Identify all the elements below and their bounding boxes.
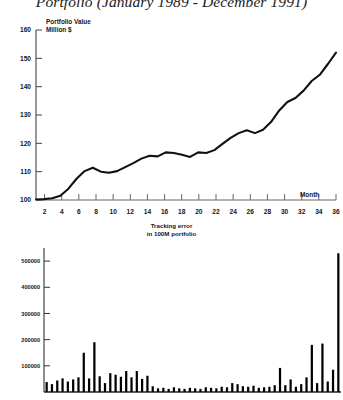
tracking-error-bar <box>321 344 323 392</box>
line-chart-x-tick-label: 22 <box>212 208 220 215</box>
line-chart-x-tick-label: 8 <box>94 208 98 215</box>
line-chart-y-tick-label: 110 <box>20 168 31 175</box>
tracking-error-bar <box>168 389 170 392</box>
tracking-error-bar <box>51 384 53 392</box>
tracking-error-bar <box>162 388 164 392</box>
tracking-error-bar <box>152 386 154 392</box>
tracking-error-bar <box>61 378 63 392</box>
tracking-error-bar <box>194 388 196 392</box>
line-chart-x-axis-label: Month <box>300 191 319 198</box>
tracking-error-bar <box>252 386 254 392</box>
tracking-error-bar <box>279 368 281 392</box>
line-chart-y-tick-label: 150 <box>20 55 31 62</box>
tracking-error-bar <box>109 373 111 392</box>
line-chart-y-tick-label: 120 <box>20 140 31 147</box>
tracking-error-bar <box>221 387 223 392</box>
line-chart-y-axis: 100110120130140150160 <box>20 26 42 203</box>
tracking-error-bar <box>274 385 276 392</box>
tracking-error-bar <box>327 382 329 392</box>
bar-chart-y-tick-label: 100000 <box>21 363 40 369</box>
tracking-error-bar <box>305 377 307 392</box>
bar-chart-y-tick-label: 300000 <box>21 311 40 317</box>
tracking-error-bar <box>236 384 238 392</box>
tracking-error-bar <box>46 382 48 392</box>
tracking-error-bar <box>125 371 127 392</box>
line-chart-x-tick-label: 30 <box>281 208 289 215</box>
line-chart-y-tick-label: 100 <box>20 196 31 203</box>
tracking-error-bar <box>215 388 217 392</box>
tracking-error-bar <box>316 383 318 392</box>
tracking-error-bar <box>242 386 244 392</box>
line-chart-x-axis: 24681012141618202224262830323436 <box>43 194 340 215</box>
caption-line-1: Tracking error <box>0 222 343 230</box>
tracking-error-bar <box>146 376 148 392</box>
line-chart-y-axis-label-2: Million $ <box>46 26 72 34</box>
tracking-error-bar <box>83 353 85 392</box>
tracking-error-bars <box>46 253 340 392</box>
line-chart-x-tick-label: 20 <box>195 208 203 215</box>
tracking-error-bar <box>72 379 74 392</box>
tracking-error-bar <box>231 383 233 392</box>
bar-chart-y-axis: 100000200000300000400000500000 <box>21 258 50 369</box>
figure-title: Portfolio (January 1989 - December 1991) <box>0 0 343 11</box>
tracking-error-bar <box>337 253 339 392</box>
tracking-error-bar <box>136 371 138 392</box>
tracking-error-bar <box>173 387 175 392</box>
tracking-error-bar <box>258 388 260 392</box>
tracking-error-bar <box>210 388 212 392</box>
tracking-error-bar <box>141 379 143 392</box>
tracking-error-bar <box>284 385 286 392</box>
line-chart-x-tick-label: 26 <box>247 208 255 215</box>
line-chart-y-tick-label: 130 <box>20 111 31 118</box>
line-chart-x-tick-label: 34 <box>315 208 323 215</box>
line-chart-x-tick-label: 28 <box>264 208 272 215</box>
portfolio-value-line-chart: 100110120130140150160 246810121416182022… <box>0 14 343 232</box>
tracking-error-bar <box>178 388 180 392</box>
tracking-error-bar <box>77 377 79 392</box>
tracking-error-bar <box>263 387 265 392</box>
tracking-error-bar <box>99 376 101 392</box>
line-chart-x-tick-label: 18 <box>178 208 186 215</box>
line-chart-x-tick-label: 32 <box>298 208 306 215</box>
bar-chart-svg: 100000200000300000400000500000 <box>0 240 343 400</box>
tracking-error-bar <box>130 377 132 392</box>
tracking-error-bar <box>88 378 90 392</box>
line-chart-x-tick-label: 14 <box>144 208 152 215</box>
caption-line-2: in 100M portfolio <box>0 230 343 238</box>
tracking-error-bar <box>67 382 69 392</box>
line-chart-y-tick-label: 140 <box>20 83 31 90</box>
line-chart-x-tick-label: 10 <box>109 208 117 215</box>
line-chart-y-axis-label-1: Portfolio Value <box>46 18 91 25</box>
tracking-error-bar <box>56 380 58 392</box>
tracking-error-bar <box>114 375 116 392</box>
tracking-error-bar <box>290 379 292 392</box>
tracking-error-bar <box>120 377 122 392</box>
tracking-error-caption: Tracking error in 100M portfolio <box>0 222 343 238</box>
line-chart-svg: 100110120130140150160 246810121416182022… <box>0 14 343 232</box>
tracking-error-bar-chart: 100000200000300000400000500000 <box>0 240 343 400</box>
tracking-error-bar <box>157 388 159 392</box>
line-chart-x-tick-label: 4 <box>60 208 64 215</box>
tracking-error-bar <box>332 370 334 392</box>
tracking-error-bar <box>183 389 185 392</box>
bar-chart-y-tick-label: 400000 <box>21 284 40 290</box>
tracking-error-bar <box>199 389 201 392</box>
line-chart-x-tick-label: 12 <box>127 208 135 215</box>
line-chart-x-tick-label: 24 <box>229 208 237 215</box>
tracking-error-bar <box>268 387 270 392</box>
line-chart-x-tick-label: 36 <box>332 208 340 215</box>
line-chart-x-tick-label: 6 <box>77 208 81 215</box>
line-chart-x-tick-label: 2 <box>43 208 47 215</box>
line-chart-x-tick-label: 16 <box>161 208 169 215</box>
tracking-error-bar <box>295 387 297 392</box>
tracking-error-bar <box>205 387 207 392</box>
portfolio-value-series <box>36 53 336 200</box>
tracking-error-bar <box>93 342 95 392</box>
tracking-error-bar <box>300 384 302 392</box>
bar-chart-y-tick-label: 200000 <box>21 337 40 343</box>
bar-chart-y-tick-label: 500000 <box>21 258 40 264</box>
tracking-error-bar <box>311 345 313 392</box>
tracking-error-bar <box>104 383 106 392</box>
line-chart-y-tick-label: 160 <box>20 26 31 33</box>
tracking-error-bar <box>226 387 228 392</box>
